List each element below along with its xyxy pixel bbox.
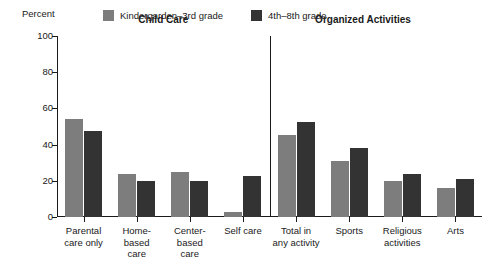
legend-swatch-4th-8th-grade xyxy=(251,10,262,21)
x-axis-label-1: Parental care only xyxy=(64,225,103,248)
bar-1-series-1 xyxy=(65,119,83,217)
x-tick-mark-1 xyxy=(84,217,85,222)
bar-2-series-2 xyxy=(137,181,155,217)
bar-6-series-2 xyxy=(350,148,368,217)
x-tick-mark-2 xyxy=(137,217,138,222)
bar-2-series-1 xyxy=(118,174,136,217)
y-tick-label: 20 xyxy=(42,175,53,186)
section-header-2: Organized Activities xyxy=(315,14,411,25)
bar-5-series-2 xyxy=(297,122,315,217)
x-axis-label-7: Religious activities xyxy=(383,225,422,248)
section-header-1: Child Care xyxy=(138,14,188,25)
bar-4-series-2 xyxy=(243,176,261,217)
x-tick-mark-5 xyxy=(296,217,297,222)
y-tick-label: 100 xyxy=(37,30,53,41)
x-axis-label-8: Arts xyxy=(447,225,464,237)
bar-6-series-1 xyxy=(331,161,349,217)
plot-area: 020406080100 Child CareOrganized Activit… xyxy=(57,36,482,217)
x-axis-label-5: Total in any activity xyxy=(273,225,320,248)
bar-chart: Percent Kindergarden–3rd grade 4th–8th g… xyxy=(0,0,496,277)
y-tick-label: 0 xyxy=(48,211,53,222)
chart-legend: Kindergarden–3rd grade 4th–8th grade xyxy=(103,10,327,21)
x-tick-mark-3 xyxy=(190,217,191,222)
x-axis-label-6: Sports xyxy=(335,225,362,237)
bar-5-series-1 xyxy=(278,135,296,217)
x-tick-mark-7 xyxy=(402,217,403,222)
y-tick-label: 40 xyxy=(42,139,53,150)
bar-8-series-1 xyxy=(437,188,455,217)
x-tick-mark-6 xyxy=(349,217,350,222)
bar-3-series-1 xyxy=(171,172,189,217)
x-axis-label-2: Home- based care xyxy=(122,225,151,260)
y-tick-label: 80 xyxy=(42,66,53,77)
bar-1-series-2 xyxy=(84,131,102,217)
x-tick-mark-4 xyxy=(243,217,244,222)
x-axis-label-4: Self care xyxy=(224,225,262,237)
bars-layer xyxy=(57,36,482,217)
bar-7-series-2 xyxy=(403,174,421,217)
bar-4-series-1 xyxy=(224,212,242,217)
y-axis-title: Percent xyxy=(22,8,55,19)
legend-swatch-kindergarden-3rd-grade xyxy=(103,10,114,21)
bar-8-series-2 xyxy=(456,179,474,217)
x-tick-mark-8 xyxy=(455,217,456,222)
y-tick-label: 60 xyxy=(42,102,53,113)
bar-7-series-1 xyxy=(384,181,402,217)
bar-3-series-2 xyxy=(190,181,208,217)
x-axis-label-3: Center- based care xyxy=(174,225,206,260)
